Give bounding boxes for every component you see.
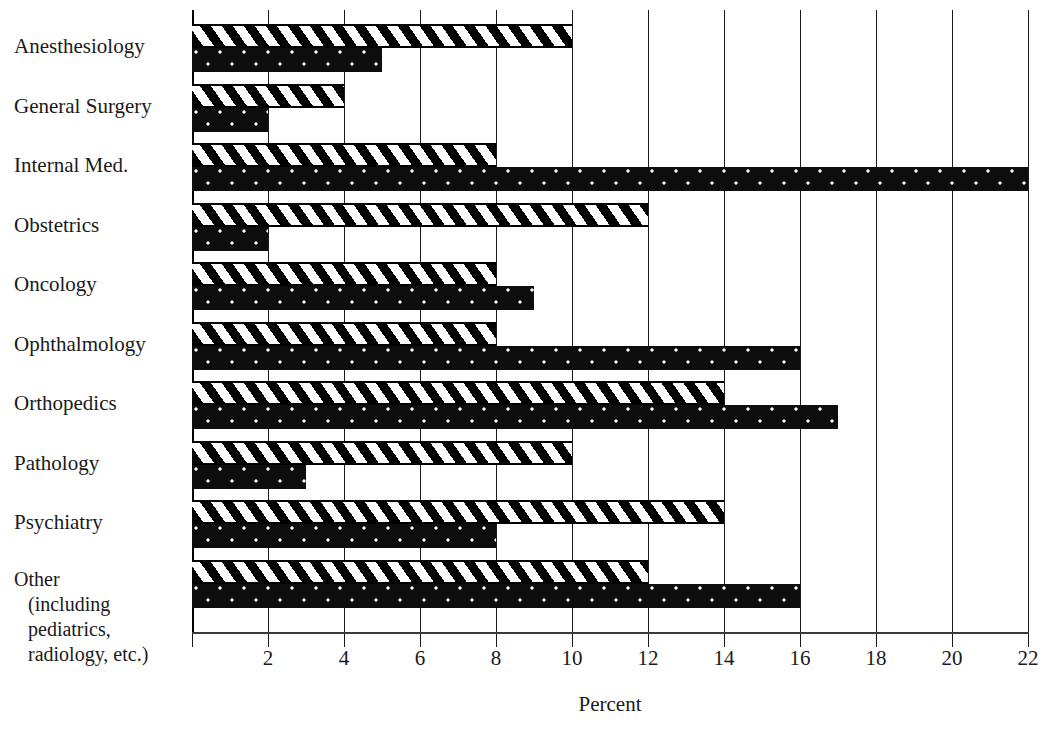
y-axis-label-line: (including: [14, 592, 178, 617]
bar-group: [192, 262, 1028, 310]
bar-hatched: [192, 381, 724, 405]
bar-group: [192, 381, 1028, 429]
y-axis-label-line: radiology, etc.): [14, 642, 178, 667]
y-axis-label: General Surgery: [0, 94, 178, 119]
x-tick-label-10: 10: [562, 646, 583, 671]
y-axis-category-labels: AnesthesiologyGeneral SurgeryInternal Me…: [0, 10, 186, 633]
bar-hatched: [192, 322, 496, 346]
bar-solid: [192, 48, 382, 72]
x-tick-label-22: 22: [1018, 646, 1039, 671]
x-tick-label-8: 8: [491, 646, 502, 671]
x-tick-label-20: 20: [942, 646, 963, 671]
bar-solid: [192, 524, 496, 548]
bar-group: [192, 560, 1028, 608]
bar-hatched: [192, 24, 572, 48]
bar-group: [192, 84, 1028, 132]
x-tick-label-18: 18: [866, 646, 887, 671]
bar-group: [192, 143, 1028, 191]
bar-solid: [192, 286, 534, 310]
bar-solid: [192, 584, 800, 608]
gridline-22: [1028, 10, 1029, 633]
y-axis-label: Pathology: [0, 451, 178, 476]
bar-solid: [192, 167, 1028, 191]
bar-hatched: [192, 560, 648, 584]
bar-hatched: [192, 262, 496, 286]
y-axis-label: Internal Med.: [0, 153, 178, 178]
bar-group: [192, 500, 1028, 548]
bar-group: [192, 24, 1028, 72]
x-tick-label-4: 4: [339, 646, 350, 671]
x-tick-label-6: 6: [415, 646, 426, 671]
bar-hatched: [192, 500, 724, 524]
bar-group: [192, 441, 1028, 489]
bar-solid: [192, 227, 268, 251]
x-tick-label-2: 2: [263, 646, 274, 671]
y-axis-label: Other(includingpediatrics,radiology, etc…: [0, 567, 178, 667]
y-axis-label: Obstetrics: [0, 213, 178, 238]
bar-solid: [192, 405, 838, 429]
x-tick-label-14: 14: [714, 646, 735, 671]
y-axis-label: Oncology: [0, 272, 178, 297]
x-tick-label-12: 12: [638, 646, 659, 671]
y-axis-label-line: pediatrics,: [14, 617, 178, 642]
x-axis-tick-labels: 246810121416182022: [192, 646, 1028, 676]
bar-hatched: [192, 143, 496, 167]
y-axis-label: Orthopedics: [0, 391, 178, 416]
bar-solid: [192, 346, 800, 370]
x-axis-title: Percent: [192, 692, 1028, 717]
bar-hatched: [192, 84, 344, 108]
bar-rows: [192, 10, 1028, 633]
bar-hatched: [192, 441, 572, 465]
x-tick-label-16: 16: [790, 646, 811, 671]
bar-hatched: [192, 203, 648, 227]
y-axis-label: Anesthesiology: [0, 34, 178, 59]
bar-solid: [192, 465, 306, 489]
y-axis-label: Psychiatry: [0, 510, 178, 535]
bar-group: [192, 203, 1028, 251]
horizontal-bar-chart: AnesthesiologyGeneral SurgeryInternal Me…: [0, 0, 1062, 733]
bar-solid: [192, 108, 268, 132]
y-axis-label: Ophthalmology: [0, 332, 178, 357]
bar-group: [192, 322, 1028, 370]
y-axis-label-line: Other: [14, 568, 60, 590]
